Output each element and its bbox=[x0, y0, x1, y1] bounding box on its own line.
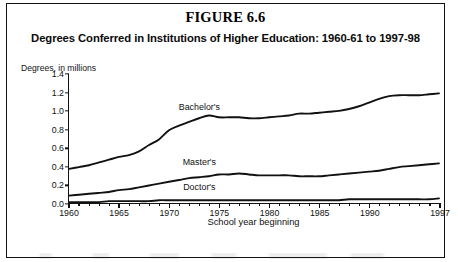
x-tick-major bbox=[68, 203, 69, 208]
x-tick-major bbox=[169, 203, 170, 208]
x-tick-major bbox=[369, 203, 370, 208]
figure-container: FIGURE 6.6 Degrees Conferred in Institut… bbox=[6, 3, 445, 258]
x-tick-minor bbox=[78, 203, 79, 206]
x-tick-minor bbox=[139, 203, 140, 206]
y-tick-label: 0.4 bbox=[52, 162, 64, 172]
x-tick-major bbox=[269, 203, 270, 208]
series-line-bachelor-s bbox=[69, 93, 439, 169]
x-tick-minor bbox=[349, 203, 350, 206]
chart-plot-frame: 1.41.21.00.80.60.40.20.0 196019651970197… bbox=[21, 74, 439, 218]
y-tick-mark bbox=[65, 148, 69, 149]
x-tick-major bbox=[219, 203, 220, 208]
x-tick-minor bbox=[149, 203, 150, 206]
x-tick-minor bbox=[229, 203, 230, 206]
x-tick-minor bbox=[209, 203, 210, 206]
x-tick-major bbox=[439, 203, 440, 208]
x-tick-minor bbox=[239, 203, 240, 206]
y-tick-mark bbox=[65, 129, 69, 130]
x-tick-minor bbox=[249, 203, 250, 206]
x-tick-minor bbox=[329, 203, 330, 206]
x-tick-minor bbox=[259, 203, 260, 206]
figure-title: FIGURE 6.6 bbox=[7, 9, 444, 26]
y-tick-mark bbox=[65, 92, 69, 93]
chart-plot-area: 1.41.21.00.80.60.40.20.0 196019651970197… bbox=[68, 74, 439, 204]
x-tick-minor bbox=[109, 203, 110, 206]
x-tick-minor bbox=[199, 203, 200, 206]
x-tick-minor bbox=[409, 203, 410, 206]
x-tick-minor bbox=[189, 203, 190, 206]
figure-subtitle: Degrees Conferred in Institutions of Hig… bbox=[7, 32, 444, 44]
x-tick-minor bbox=[299, 203, 300, 206]
y-tick-label: 0.8 bbox=[52, 125, 64, 135]
x-tick-minor bbox=[279, 203, 280, 206]
y-tick-mark bbox=[65, 166, 69, 167]
x-tick-minor bbox=[389, 203, 390, 206]
chart-series-layer bbox=[69, 74, 439, 203]
x-tick-minor bbox=[379, 203, 380, 206]
x-tick-minor bbox=[399, 203, 400, 206]
series-line-master-s bbox=[69, 163, 439, 195]
x-tick-minor bbox=[359, 203, 360, 206]
series-line-doctor-s bbox=[69, 198, 439, 202]
x-tick-minor bbox=[159, 203, 160, 206]
y-tick-label: 0.2 bbox=[52, 180, 64, 190]
y-tick-label: 1.2 bbox=[52, 88, 64, 98]
y-tick-mark bbox=[65, 73, 69, 74]
series-label-bachelor-s: Bachelor's bbox=[178, 102, 221, 112]
x-tick-minor bbox=[289, 203, 290, 206]
y-tick-label: 1.0 bbox=[52, 106, 64, 116]
scan-artifact-text bbox=[21, 253, 431, 259]
series-label-master-s: Master's bbox=[182, 157, 217, 167]
x-tick-minor bbox=[99, 203, 100, 206]
y-tick-label: 0.6 bbox=[52, 143, 64, 153]
x-tick-minor bbox=[429, 203, 430, 206]
x-tick-minor bbox=[179, 203, 180, 206]
x-tick-major bbox=[118, 203, 119, 208]
y-tick-mark bbox=[65, 185, 69, 186]
y-tick-mark bbox=[65, 110, 69, 111]
x-tick-minor bbox=[339, 203, 340, 206]
x-tick-major bbox=[319, 203, 320, 208]
x-tick-minor bbox=[419, 203, 420, 206]
y-tick-label: 1.4 bbox=[52, 69, 64, 79]
x-tick-minor bbox=[309, 203, 310, 206]
x-tick-minor bbox=[129, 203, 130, 206]
x-tick-minor bbox=[89, 203, 90, 206]
x-axis-title: School year beginning bbox=[68, 217, 439, 227]
series-label-doctor-s: Doctor's bbox=[182, 182, 216, 192]
